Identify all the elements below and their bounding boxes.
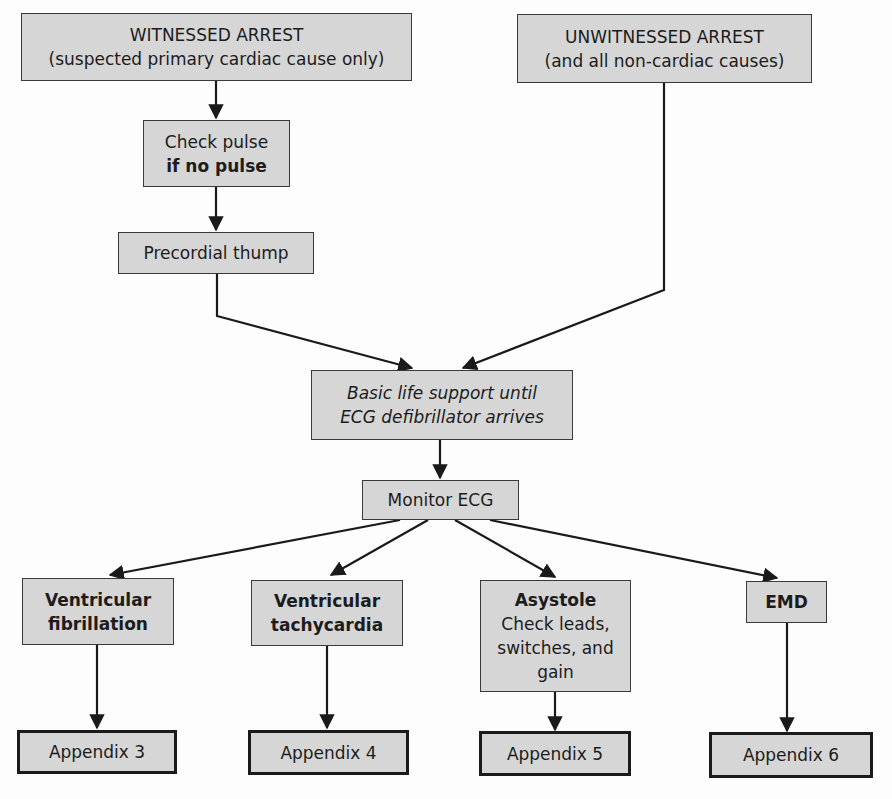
node-line: fibrillation xyxy=(48,612,148,636)
node-line: Appendix 5 xyxy=(507,742,603,766)
node-line-bold: Asystole xyxy=(515,588,597,612)
node-monitor-ecg: Monitor ECG xyxy=(362,480,519,520)
node-appendix-5: Appendix 5 xyxy=(479,731,631,776)
node-line: Appendix 6 xyxy=(743,743,839,767)
node-line: Appendix 4 xyxy=(280,741,376,765)
node-line: ECG defibrillator arrives xyxy=(340,405,544,429)
node-ventricular-tachycardia: Ventricular tachycardia xyxy=(251,580,403,646)
node-unwitnessed-arrest: UNWITNESSED ARREST (and all non-cardiac … xyxy=(517,14,812,83)
node-appendix-6: Appendix 6 xyxy=(709,732,873,778)
node-check-pulse: Check pulse if no pulse xyxy=(143,120,290,187)
node-ventricular-fibrillation: Ventricular fibrillation xyxy=(22,578,174,645)
node-line: tachycardia xyxy=(271,613,383,637)
node-witnessed-arrest: WITNESSED ARREST (suspected primary card… xyxy=(21,13,412,81)
node-line: Basic life support until xyxy=(347,381,537,405)
node-line: EMD xyxy=(765,590,808,614)
node-line: switches, and xyxy=(497,636,613,660)
node-line: Ventricular xyxy=(45,588,151,612)
node-line: Appendix 3 xyxy=(49,740,145,764)
node-appendix-3: Appendix 3 xyxy=(17,730,177,774)
node-subtitle: (suspected primary cardiac cause only) xyxy=(49,47,385,71)
node-line-bold: if no pulse xyxy=(166,154,267,178)
flowchart-canvas: WITNESSED ARREST (suspected primary card… xyxy=(0,0,892,799)
node-precordial-thump: Precordial thump xyxy=(118,232,314,274)
node-line: Monitor ECG xyxy=(388,488,494,512)
node-line: Check pulse xyxy=(165,130,268,154)
node-subtitle: (and all non-cardiac causes) xyxy=(545,49,785,73)
node-line: Check leads, xyxy=(501,612,609,636)
node-appendix-4: Appendix 4 xyxy=(248,730,409,775)
node-line: Ventricular xyxy=(274,589,380,613)
node-title: UNWITNESSED ARREST xyxy=(565,25,764,49)
node-title: WITNESSED ARREST xyxy=(130,23,304,47)
node-line: Precordial thump xyxy=(143,241,288,265)
node-basic-life-support: Basic life support until ECG defibrillat… xyxy=(311,370,573,440)
node-asystole: Asystole Check leads, switches, and gain xyxy=(480,580,631,692)
node-line: gain xyxy=(537,660,574,684)
node-emd: EMD xyxy=(746,581,827,623)
